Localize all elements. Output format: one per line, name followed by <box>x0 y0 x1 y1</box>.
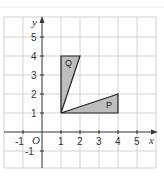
y-tick-label: 3 <box>31 70 37 81</box>
y-tick-label: 1 <box>31 108 37 119</box>
y-tick-label: 5 <box>31 32 37 43</box>
x-axis-label: x <box>148 134 154 146</box>
y-tick-label: 2 <box>31 89 37 100</box>
coordinate-diagram: Q P -1 1 2 3 4 5 -1 1 2 3 4 5 O x y <box>0 0 164 177</box>
y-tick-label: 4 <box>31 51 37 62</box>
origin-label: O <box>32 134 40 146</box>
x-tick-label: 1 <box>58 136 64 147</box>
x-tick-label: 3 <box>96 136 102 147</box>
x-tick-label: 5 <box>134 136 140 147</box>
x-tick-label: 4 <box>115 136 121 147</box>
label-q: Q <box>65 58 72 68</box>
label-p: P <box>106 100 112 110</box>
y-axis-label: y <box>31 16 37 28</box>
x-tick-label: 2 <box>77 136 83 147</box>
y-tick-label: -1 <box>25 146 34 157</box>
x-tick-label: -1 <box>15 136 24 147</box>
